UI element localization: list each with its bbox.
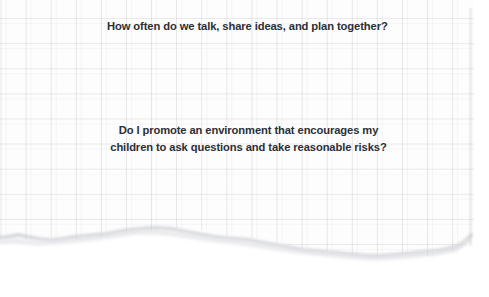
question-2-line-2: children to ask questions and take reaso…	[106, 139, 391, 156]
page-root: and listen to what is important to them?…	[0, 0, 489, 297]
question-2-line-1: Do I promote an environment that encoura…	[106, 122, 391, 139]
question-2-text: Do I promote an environment that encoura…	[106, 122, 391, 156]
question-1-text: How often do we talk, share ideas, and p…	[107, 19, 388, 33]
